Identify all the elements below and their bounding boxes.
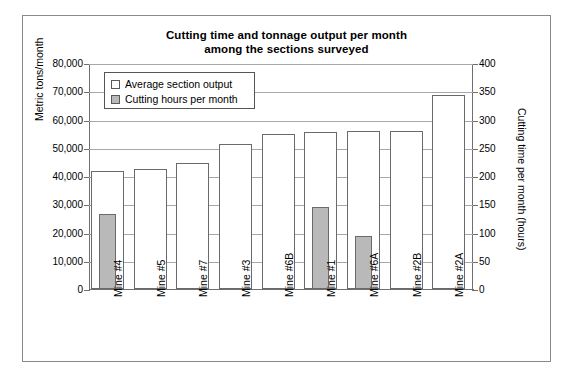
y-tick-left (84, 149, 89, 150)
y-tick-label-left: 70,000 (23, 87, 83, 97)
y-tick-label-left: 20,000 (23, 229, 83, 239)
chart-figure: Cutting time and tonnage output per mont… (22, 15, 551, 362)
x-tick-label: Mine #2A (454, 253, 465, 297)
y-tick-right (473, 149, 478, 150)
y-tick-label-right: 50 (479, 257, 521, 267)
y-tick-label-left: 80,000 (23, 59, 83, 69)
y-tick-label-right: 100 (479, 229, 521, 239)
y-tick-right (473, 64, 478, 65)
y-tick-left (84, 121, 89, 122)
y-tick-left (84, 177, 89, 178)
y-axis-label-left: Metric tons/month (33, 38, 45, 121)
x-tick-label: Mine #3 (241, 260, 252, 297)
y-tick-left (84, 205, 89, 206)
x-tick-label: Mine #5 (156, 260, 167, 297)
legend-label-output: Average section output (125, 79, 232, 90)
y-tick-right (473, 177, 478, 178)
chart-legend: Average section output Cutting hours per… (104, 72, 255, 109)
y-tick-label-right: 350 (479, 87, 521, 97)
gray-square-icon (111, 95, 120, 104)
x-tick-label: Mine #2B (412, 253, 423, 297)
y-tick-right (473, 262, 478, 263)
y-tick-left (84, 262, 89, 263)
chart-title: Cutting time and tonnage output per mont… (23, 28, 550, 56)
y-tick-label-right: 150 (479, 200, 521, 210)
legend-label-hours: Cutting hours per month (125, 94, 238, 105)
y-tick-label-right: 250 (479, 144, 521, 154)
legend-item-output: Average section output (111, 77, 249, 91)
y-tick-label-left: 60,000 (23, 116, 83, 126)
x-tick-label: Mine #6B (284, 253, 295, 297)
y-tick-label-left: 50,000 (23, 144, 83, 154)
y-tick-right (473, 121, 478, 122)
y-tick-label-left: 10,000 (23, 257, 83, 267)
y-tick-label-right: 400 (479, 59, 521, 69)
white-square-icon (111, 80, 120, 89)
bar-slot (304, 63, 337, 289)
y-tick-label-right: 0 (479, 285, 521, 295)
x-tick-label: Mine #6A (369, 253, 380, 297)
y-tick-label-right: 300 (479, 116, 521, 126)
y-tick-right (473, 290, 478, 291)
chart-title-line-2: among the sections surveyed (23, 42, 550, 56)
x-tick-label: Mine #4 (113, 260, 124, 297)
y-tick-label-left: 0 (23, 285, 83, 295)
y-tick-label-left: 30,000 (23, 200, 83, 210)
y-tick-left (84, 290, 89, 291)
legend-item-hours: Cutting hours per month (111, 92, 249, 106)
y-tick-right (473, 205, 478, 206)
chart-title-line-1: Cutting time and tonnage output per mont… (166, 29, 407, 41)
y-tick-right (473, 92, 478, 93)
y-tick-left (84, 92, 89, 93)
y-tick-left (84, 234, 89, 235)
x-tick-label: Mine #7 (198, 260, 209, 297)
x-tick-label: Mine #1 (326, 260, 337, 297)
y-tick-label-right: 200 (479, 172, 521, 182)
y-tick-label-left: 40,000 (23, 172, 83, 182)
y-tick-left (84, 64, 89, 65)
y-tick-right (473, 234, 478, 235)
